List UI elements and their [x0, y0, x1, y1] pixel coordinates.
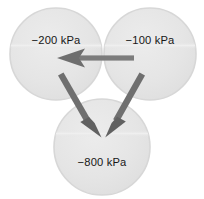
diagram-canvas: −200 kPa −100 kPa −800 kPa — [0, 0, 204, 199]
cell-left-label: −200 kPa — [32, 34, 81, 46]
water-potential-diagram: −200 kPa −100 kPa −800 kPa — [0, 0, 204, 199]
cell-left-body — [10, 8, 102, 100]
cell-right: −100 kPa — [102, 8, 198, 100]
cell-bottom-label: −800 kPa — [78, 156, 127, 168]
cell-bottom: −800 kPa — [52, 99, 152, 195]
cell-bottom-band — [52, 130, 152, 137]
cell-right-body — [104, 8, 196, 100]
arrow-right-to-left-shaft — [79, 55, 134, 60]
cell-left: −200 kPa — [8, 8, 104, 100]
cell-right-label: −100 kPa — [126, 34, 175, 46]
cell-bottom-body — [54, 99, 150, 195]
